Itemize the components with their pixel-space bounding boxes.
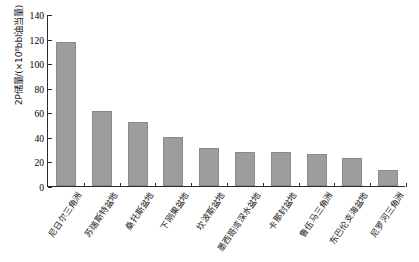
y-axis-tick-label: 100 — [14, 59, 44, 70]
x-axis-tick-label: 下刚果盆地 — [157, 189, 191, 232]
bar — [163, 137, 183, 186]
bar — [92, 111, 112, 186]
x-axis-tick-mark — [406, 183, 407, 187]
y-axis-tick-label: 120 — [14, 34, 44, 45]
bar — [199, 148, 219, 186]
x-axis-tick-labels: 尼日尔三角洲苏瑞斯特盆地桑托斯盆地下刚果盆地坎波斯盆地墨西哥湾深水盆地卡那封盆地… — [47, 189, 419, 262]
y-axis-tick-label: 40 — [14, 132, 44, 143]
x-axis-tick-mark — [227, 183, 228, 187]
y-axis-tick-mark — [48, 15, 52, 16]
x-axis-tick-label: 尼日尔三角洲 — [45, 189, 84, 239]
y-axis-tick-label: 80 — [14, 83, 44, 94]
x-axis-tick-mark — [84, 183, 85, 187]
x-axis-tick-label: 尼罗河三角洲 — [367, 189, 406, 239]
y-axis-tick-mark — [48, 113, 52, 114]
x-axis-tick-mark — [263, 183, 264, 187]
y-axis-tick-mark — [48, 64, 52, 65]
x-axis-tick-label: 桑托斯盆地 — [121, 189, 155, 232]
y-axis-tick-mark — [48, 162, 52, 163]
bar — [378, 170, 398, 186]
x-axis-tick-mark — [155, 183, 156, 187]
y-axis-tick-mark — [48, 40, 52, 41]
y-axis-tick-mark — [48, 187, 52, 188]
y-axis-tick-label: 60 — [14, 108, 44, 119]
x-axis-tick-mark — [299, 183, 300, 187]
x-axis-tick-label: 鲁伍马三角洲 — [295, 189, 334, 239]
bar-chart: 2P储量/(×10⁸bbl油当量) 020406080100120140 尼日尔… — [0, 0, 419, 262]
y-axis-tick-mark — [48, 138, 52, 139]
y-axis-tick-label: 0 — [14, 182, 44, 193]
bar — [342, 158, 362, 186]
y-axis-tick-label: 140 — [14, 10, 44, 21]
x-axis-tick-mark — [334, 183, 335, 187]
y-axis-tick-labels: 020406080100120140 — [14, 0, 44, 262]
x-axis-tick-label: 苏瑞斯特盆地 — [80, 189, 119, 239]
bar — [307, 154, 327, 186]
bar — [271, 152, 291, 186]
bar — [235, 152, 255, 186]
x-axis-tick-mark — [370, 183, 371, 187]
bar-series — [48, 15, 405, 186]
x-axis-tick-label: 坎波斯盆地 — [193, 189, 227, 232]
bar — [128, 122, 148, 186]
x-axis-tick-mark — [191, 183, 192, 187]
x-axis-tick-label: 卡那封盆地 — [264, 189, 298, 232]
y-axis-tick-mark — [48, 89, 52, 90]
plot-area — [47, 15, 405, 187]
bar — [56, 42, 76, 186]
y-axis-tick-label: 20 — [14, 157, 44, 168]
x-axis-tick-mark — [120, 183, 121, 187]
